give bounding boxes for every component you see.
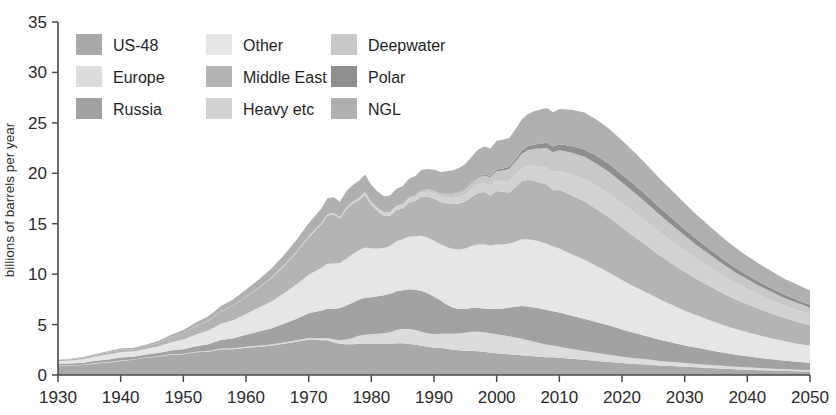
legend-item-other[interactable]: Other [206, 34, 284, 55]
stacked-area-chart: 0510152025303519301940195019601970198019… [0, 0, 836, 415]
legend-label-middle-east: Middle East [243, 69, 327, 86]
x-tick-label-1960: 1960 [227, 388, 265, 407]
legend-swatch-deepwater [331, 34, 357, 55]
x-tick-label-2020: 2020 [603, 388, 641, 407]
legend-label-russia: Russia [113, 101, 162, 118]
y-tick-label-5: 5 [38, 316, 47, 335]
legend-swatch-us-48 [76, 34, 102, 55]
legend-swatch-ngl [331, 98, 357, 119]
y-tick-label-20: 20 [28, 164, 47, 183]
x-tick-label-1950: 1950 [164, 388, 202, 407]
legend-swatch-middle-east [206, 66, 232, 87]
y-tick-label-0: 0 [38, 366, 47, 385]
legend-group: US-48EuropeRussiaOtherMiddle EastHeavy e… [76, 34, 446, 119]
legend-label-ngl: NGL [368, 101, 401, 118]
legend-label-other: Other [243, 37, 284, 54]
x-tick-label-2050: 2050 [791, 388, 829, 407]
y-tick-label-10: 10 [28, 265, 47, 284]
legend-swatch-other [206, 34, 232, 55]
y-axis-label-group: billions of barrels per year [2, 122, 17, 277]
legend-swatch-heavy-etc [206, 98, 232, 119]
legend-item-middle-east[interactable]: Middle East [206, 66, 327, 87]
legend-swatch-russia [76, 98, 102, 119]
area-bands-group [58, 108, 810, 375]
legend-label-us-48: US-48 [113, 37, 158, 54]
x-tick-label-2040: 2040 [728, 388, 766, 407]
y-axis-title: billions of barrels per year [2, 122, 17, 277]
legend-item-polar[interactable]: Polar [331, 66, 406, 87]
y-tick-label-30: 30 [28, 63, 47, 82]
x-tick-label-1970: 1970 [290, 388, 328, 407]
y-tick-label-35: 35 [28, 13, 47, 32]
legend-swatch-europe [76, 66, 102, 87]
legend-item-deepwater[interactable]: Deepwater [331, 34, 446, 55]
x-tick-label-2030: 2030 [666, 388, 704, 407]
legend-label-polar: Polar [368, 69, 406, 86]
x-tick-label-1930: 1930 [39, 388, 77, 407]
x-tick-label-1990: 1990 [415, 388, 453, 407]
chart-svg: 0510152025303519301940195019601970198019… [0, 0, 836, 415]
x-tick-label-2000: 2000 [478, 388, 516, 407]
legend-label-europe: Europe [113, 69, 165, 86]
legend-label-deepwater: Deepwater [368, 37, 446, 54]
x-tick-label-1980: 1980 [352, 388, 390, 407]
x-tick-label-1940: 1940 [102, 388, 140, 407]
legend-item-europe[interactable]: Europe [76, 66, 165, 87]
legend-item-us-48[interactable]: US-48 [76, 34, 158, 55]
legend-item-heavy-etc[interactable]: Heavy etc [206, 98, 314, 119]
legend-label-heavy-etc: Heavy etc [243, 101, 314, 118]
y-tick-label-25: 25 [28, 114, 47, 133]
legend-item-russia[interactable]: Russia [76, 98, 162, 119]
x-tick-label-2010: 2010 [540, 388, 578, 407]
legend-item-ngl[interactable]: NGL [331, 98, 401, 119]
legend-swatch-polar [331, 66, 357, 87]
y-tick-label-15: 15 [28, 215, 47, 234]
